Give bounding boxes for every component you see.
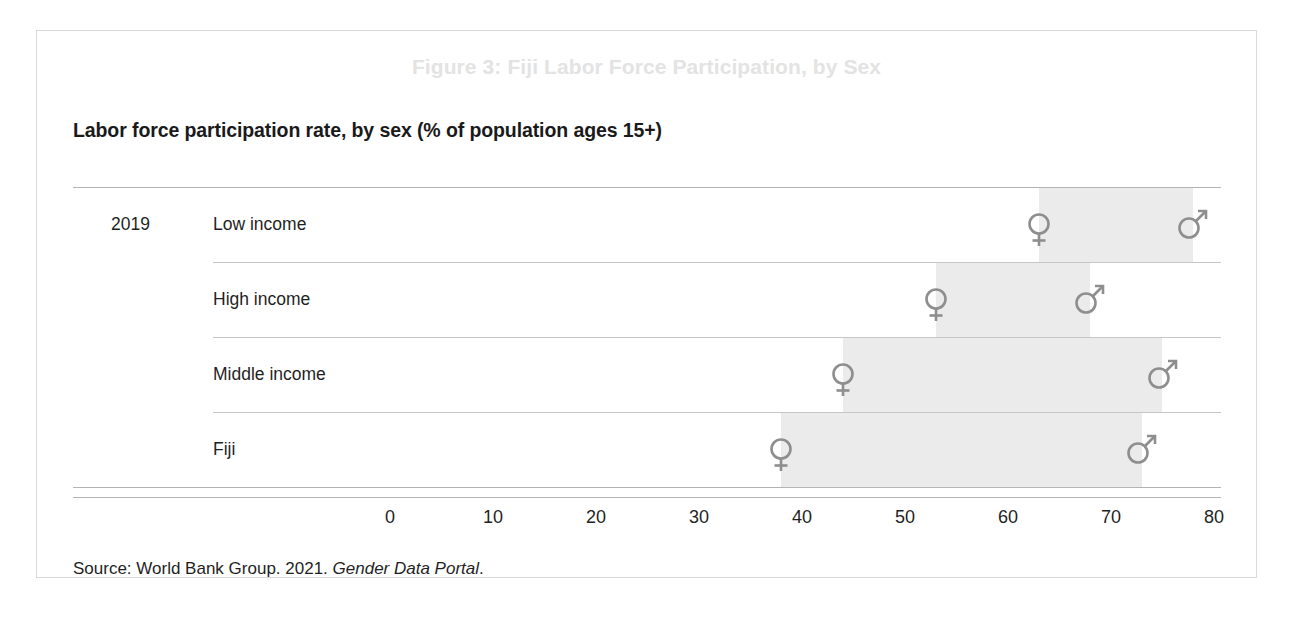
row-separator: [213, 412, 1221, 413]
x-tick-label: 0: [385, 507, 395, 528]
row-separator: [73, 487, 1221, 488]
row-separator: [213, 262, 1221, 263]
male-symbol: [1125, 432, 1159, 466]
x-tick-label: 80: [1204, 507, 1224, 528]
female-symbol: [923, 287, 949, 323]
x-axis-line: [73, 497, 1221, 498]
row-label: Middle income: [213, 364, 326, 385]
x-tick-label: 10: [483, 507, 503, 528]
female-symbol: [768, 437, 794, 473]
figure-page: Figure 3: Fiji Labor Force Participation…: [0, 0, 1294, 619]
source-prefix: Source: World Bank Group. 2021.: [73, 559, 328, 578]
gap-band: [1039, 187, 1194, 262]
source-suffix: .: [479, 559, 484, 578]
gap-band: [781, 412, 1142, 487]
x-tick-label: 50: [895, 507, 915, 528]
row-label: High income: [213, 289, 310, 310]
source-title: Gender Data Portal: [333, 559, 479, 578]
figure-frame: Figure 3: Fiji Labor Force Participation…: [36, 30, 1257, 578]
chart-plot-area: Low income2019High incomeMiddle incomeFi…: [73, 157, 1221, 467]
x-tick-label: 30: [689, 507, 709, 528]
x-tick-label: 40: [792, 507, 812, 528]
male-symbol: [1176, 207, 1210, 241]
female-symbol: [1026, 212, 1052, 248]
male-symbol: [1146, 357, 1180, 391]
row-separator: [213, 337, 1221, 338]
male-symbol: [1073, 282, 1107, 316]
x-tick-label: 20: [586, 507, 606, 528]
source-note: Source: World Bank Group. 2021. Gender D…: [73, 559, 484, 579]
row-separator: [73, 187, 1221, 188]
gap-band: [843, 337, 1162, 412]
gap-band: [936, 262, 1091, 337]
row-label: Low income: [213, 214, 306, 235]
x-tick-label: 60: [998, 507, 1018, 528]
chart-subtitle: Labor force participation rate, by sex (…: [73, 119, 662, 142]
figure-title: Figure 3: Fiji Labor Force Participation…: [37, 55, 1256, 79]
row-label: Fiji: [213, 439, 235, 460]
female-symbol: [830, 362, 856, 398]
year-label: 2019: [111, 214, 150, 235]
x-tick-label: 70: [1101, 507, 1121, 528]
